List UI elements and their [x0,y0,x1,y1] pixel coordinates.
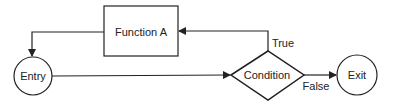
function-a-label: Function A [115,26,167,38]
condition-label: Condition [244,69,290,81]
edge-condition-true-to-function [179,31,268,51]
flowchart-canvas [0,0,403,104]
entry-label: Entry [20,70,46,82]
edge-entry-to-condition [52,75,230,76]
false-edge-label: False [303,80,330,92]
true-edge-label: True [272,37,294,49]
edge-function-to-entry [32,32,104,56]
exit-label: Exit [348,69,366,81]
